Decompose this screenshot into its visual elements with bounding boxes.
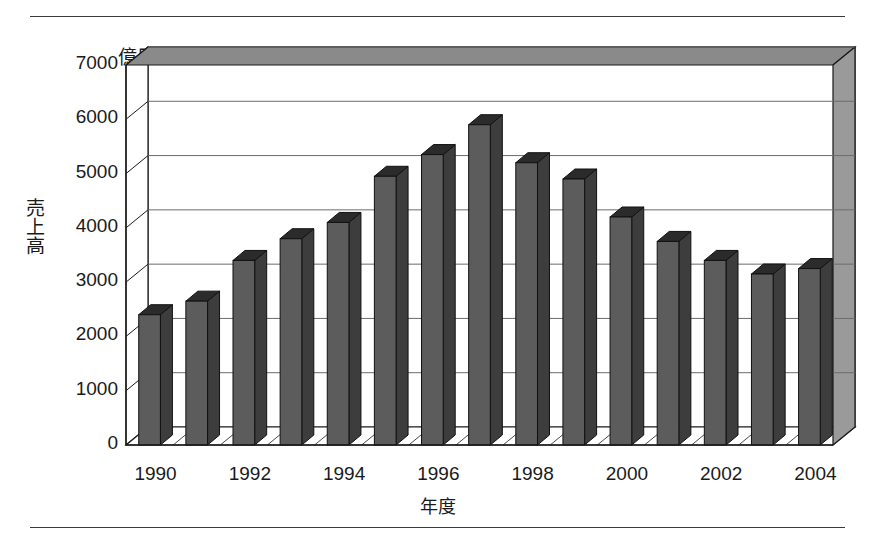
x-tick-label: 1996: [417, 463, 459, 485]
x-tick-label: 1998: [511, 463, 553, 485]
x-tick-label: 2002: [700, 463, 742, 485]
x-tick-label: 1994: [323, 463, 365, 485]
top-rule: [30, 16, 845, 17]
x-tick-label: 2004: [794, 463, 836, 485]
x-tick-label: 1992: [229, 463, 271, 485]
x-axis-tick-labels: 19901992199419961998200020022004: [0, 20, 875, 520]
bottom-rule: [30, 527, 845, 528]
x-tick-label: 2000: [606, 463, 648, 485]
x-tick-label: 1990: [134, 463, 176, 485]
figure-page: 億円 売上高 年度 01000200030004000500060007000 …: [0, 0, 875, 540]
bar-chart: 億円 売上高 年度 01000200030004000500060007000 …: [0, 20, 875, 520]
